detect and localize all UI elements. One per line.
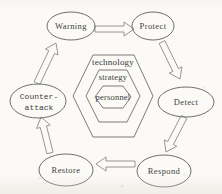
scanned-diagram-page: Warning Protect Detect Respond Restore C — [0, 0, 222, 194]
node-respond: Respond — [137, 155, 191, 187]
restore-label: Restore — [52, 165, 81, 175]
protect-label: Protect — [140, 21, 167, 31]
arrow-protect-to-detect — [159, 41, 182, 79]
arrow-detect-to-respond — [164, 116, 187, 153]
strategy-label: strategy — [99, 72, 128, 82]
arrow-warning-to-protect — [95, 22, 134, 36]
node-restore: Restore — [39, 154, 93, 186]
personnel-label: personnel — [96, 92, 131, 102]
arrow-restore-to-counterattack — [37, 117, 54, 154]
core-hexagons: technology strategy personnel — [73, 55, 153, 137]
arrow-counterattack-to-warning — [34, 43, 58, 84]
arrow-respond-to-restore — [96, 157, 135, 171]
counter-attack-label-line2: attack — [25, 103, 54, 112]
respond-label: Respond — [148, 166, 181, 176]
counter-attack-ellipse — [10, 84, 66, 118]
detect-label: Detect — [174, 97, 199, 107]
counter-attack-label-line1: Counter- — [20, 92, 58, 101]
node-protect: Protect — [132, 12, 174, 40]
node-detect: Detect — [158, 87, 214, 117]
technology-label: technology — [92, 57, 134, 67]
node-warning: Warning — [47, 12, 95, 40]
warning-label: Warning — [55, 21, 87, 31]
node-counter-attack: Counter- attack — [10, 84, 66, 118]
security-cycle-diagram: Warning Protect Detect Respond Restore C — [0, 0, 222, 194]
